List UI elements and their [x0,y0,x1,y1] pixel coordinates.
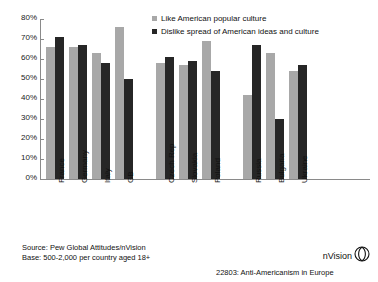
bar [243,95,252,179]
y-axis-tick: 10% [0,159,44,160]
brand-name: nVision [323,251,352,261]
x-axis-label: Russia [254,159,263,183]
y-axis-tick: 50% [0,79,44,80]
y-axis-tick-label: 10% [21,153,37,162]
x-axis-label: Poland [213,158,222,183]
y-axis-tick-label: 70% [21,33,37,42]
footer-source: Source: Pew Global Attitudes/nVision Bas… [22,243,150,263]
x-axis-label: Germany [80,150,89,183]
y-axis-tick-mark [40,119,44,120]
y-axis-tick: 60% [0,59,44,60]
y-axis-tick-mark [40,159,44,160]
y-axis-tick: 40% [0,99,44,100]
source-line-2: Base: 500-2,000 per country aged 18+ [22,253,150,263]
source-line-1: Source: Pew Global Attitudes/nVision [22,243,150,253]
x-axis-label: Ukraine [300,155,309,183]
x-axis-label: Bulgaria [277,154,286,183]
x-axis-labels: FranceGermanyItalyGBCzech RepSlovakiaPol… [40,0,370,100]
y-axis-tick: 20% [0,139,44,140]
y-axis-tick-mark [40,179,44,180]
x-axis-label: Czech Rep [167,143,176,183]
y-axis-tick-mark [40,139,44,140]
y-axis-tick-label: 80% [21,13,37,22]
x-axis-label: Italy [103,168,112,183]
x-axis-line [40,179,370,180]
y-axis-tick-label: 60% [21,53,37,62]
x-axis-label: Slovakia [190,153,199,183]
y-axis-tick-label: 50% [21,73,37,82]
x-axis-label: France [57,158,66,183]
y-axis-tick-label: 40% [21,93,37,102]
y-axis-tick: 70% [0,39,44,40]
y-axis-tick: 30% [0,119,44,120]
y-axis-tick-label: 20% [21,133,37,142]
y-axis-tick-label: 0% [25,173,37,182]
chart-page: Like American popular culture Dislike sp… [0,0,378,282]
y-axis-tick: 80% [0,19,44,20]
y-axis-tick-label: 30% [21,113,37,122]
brand-logo: nVision [323,246,370,266]
nvision-leaf-icon [354,246,370,266]
y-axis-tick: 0% [0,179,44,180]
footer-caption: 22803: Anti-Americanism in Europe [216,268,334,278]
x-axis-label: GB [126,171,135,183]
